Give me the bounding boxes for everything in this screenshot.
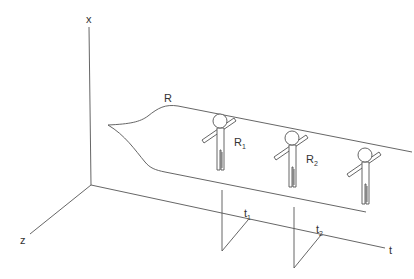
ribbon-upper-edge xyxy=(108,105,412,152)
t2-diagonal xyxy=(294,235,321,268)
x-axis xyxy=(89,27,91,185)
figure-r2-label: R2 xyxy=(306,153,318,167)
t2-label: t2 xyxy=(316,223,323,237)
time-markers: t1 t2 xyxy=(222,190,323,268)
z-axis xyxy=(30,185,91,234)
x-axis-label: x xyxy=(86,13,92,25)
t-axis-label: t xyxy=(389,244,392,256)
figure-r3 xyxy=(347,148,381,204)
figure-r1: R1 xyxy=(202,114,246,170)
t1-diagonal xyxy=(222,220,248,251)
ribbon-label: R xyxy=(164,92,172,104)
person-icon xyxy=(202,114,236,170)
axes: x z t xyxy=(20,13,392,256)
person-icon xyxy=(347,148,381,204)
figure-r2: R2 xyxy=(274,131,318,187)
spacetime-diagram: x z t R t1 t2 R1 R2 xyxy=(0,0,414,279)
figure-r1-label: R1 xyxy=(234,136,246,150)
z-axis-label: z xyxy=(20,234,26,246)
person-icon xyxy=(274,131,308,187)
t1-label: t1 xyxy=(244,207,251,221)
t-axis xyxy=(91,185,385,248)
